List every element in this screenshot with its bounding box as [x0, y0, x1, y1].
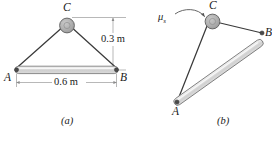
cord-cb-b	[216, 22, 262, 33]
point-label-b-panel-a: B	[120, 72, 127, 84]
friction-coefficient-label: μs	[158, 12, 166, 25]
dimension-label-height: 0.3 m	[101, 34, 125, 45]
mu-subscript: s	[163, 17, 166, 25]
point-label-c-panel-b: C	[209, 0, 217, 12]
point-label-b-panel-b: B	[265, 27, 272, 39]
pin-b-panel-a	[114, 68, 118, 72]
mechanics-figure: A B C 0.3 m 0.6 m A B C μs (a) (b)	[0, 0, 272, 146]
cord-ac-a	[16, 25, 65, 69]
peg-c-panel-b	[205, 14, 220, 29]
point-label-a-panel-a: A	[4, 72, 11, 84]
cord-cb-a	[69, 25, 117, 69]
figure-canvas	[0, 0, 272, 146]
point-label-a-panel-b: A	[172, 106, 179, 118]
pin-a-panel-a	[14, 68, 18, 72]
pin-a-panel-b	[175, 100, 179, 104]
bar-ab-b	[172, 38, 264, 107]
bar-ab-a	[15, 66, 118, 73]
peg-c-panel-a	[60, 18, 75, 33]
panel-b-group	[172, 10, 264, 107]
pin-b-panel-b	[260, 31, 264, 35]
caption-a: (a)	[61, 116, 73, 127]
point-label-c-panel-a: C	[63, 2, 71, 14]
dimension-label-span: 0.6 m	[54, 77, 78, 88]
friction-leader-arrow	[175, 10, 205, 17]
caption-b: (b)	[217, 116, 229, 127]
